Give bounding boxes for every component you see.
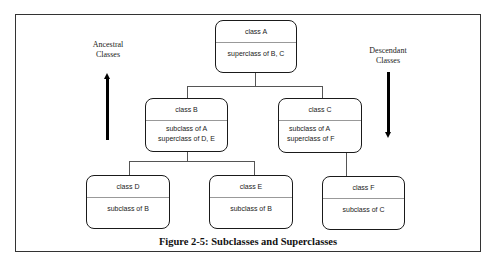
connector-de-horizontal [129,161,255,162]
class-description: subclass of B [210,204,292,214]
figure-caption: Figure 2-5: Subclasses and Superclasses [15,236,481,247]
class-description: superclass of B, C [216,49,296,59]
connector-a-down [255,73,256,86]
class-description: subclass of A [287,124,361,134]
class-description: superclass of F [287,134,361,144]
class-box-b: class B subclass of A superclass of D, E [145,98,228,152]
class-box-f: class F subclass of C [322,176,405,230]
class-box-e: class E subclass of B [209,175,293,229]
class-name: class A [216,21,296,43]
class-description: subclass of B [87,204,169,214]
class-name: class D [87,176,169,198]
class-name: class B [146,99,227,121]
arrow-up-shaft [106,78,109,140]
class-box-c: class C subclass of A superclass of F [278,98,362,153]
connector-to-b [187,86,188,98]
class-name: class C [279,99,361,121]
class-box-a: class A superclass of B, C [215,20,297,73]
ancestral-classes-label: Ancestral Classes [88,40,128,60]
arrow-down-shaft [387,72,390,134]
class-description: superclass of D, E [146,134,227,144]
class-name: class E [210,176,292,198]
descendant-classes-label: Descendant Classes [362,46,414,66]
class-box-d: class D subclass of B [86,175,170,229]
class-name: class F [323,177,404,199]
arrow-down-icon [385,132,391,138]
connector-to-c [322,86,323,98]
connector-to-e [254,161,255,175]
connector-bc-horizontal [187,86,323,87]
class-description: subclass of C [323,205,404,215]
connector-c-to-f [346,153,347,176]
class-description: subclass of A [146,124,227,134]
connector-to-d [129,161,130,175]
connector-b-down [187,152,188,161]
